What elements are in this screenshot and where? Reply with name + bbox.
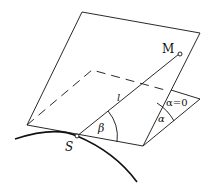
surface-curve <box>15 132 137 182</box>
label-s: S <box>65 141 73 153</box>
diagram-canvas: M S l β α α=0 <box>0 0 213 189</box>
point-s <box>75 134 79 138</box>
label-m: M <box>162 43 174 55</box>
point-m <box>178 52 182 56</box>
beta-arc <box>108 111 117 142</box>
label-alpha-zero: α=0 <box>166 98 188 108</box>
geometry-figure <box>0 0 213 189</box>
hidden-plane-edge <box>27 70 165 125</box>
label-l: l <box>117 93 120 103</box>
inclined-plane <box>27 12 200 146</box>
label-beta: β <box>98 123 104 134</box>
label-alpha: α <box>158 114 165 124</box>
